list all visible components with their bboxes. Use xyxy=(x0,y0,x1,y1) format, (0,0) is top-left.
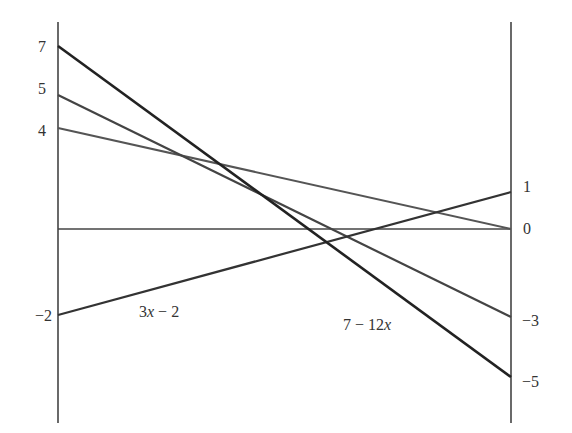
label-rest: − 2 xyxy=(154,303,179,320)
right-tick-label: 0 xyxy=(523,220,531,237)
left-tick-label: −2 xyxy=(35,307,52,324)
label-coef: 3 xyxy=(139,303,147,320)
line-label-3x-minus-2: 3x − 2 xyxy=(139,303,179,320)
left-tick-label: 5 xyxy=(38,80,46,97)
right-tick-label: −5 xyxy=(522,373,539,390)
series-line-5-minus-8x xyxy=(58,95,511,317)
right-tick-label: 1 xyxy=(523,178,531,195)
left-tick-label: 4 xyxy=(38,122,46,139)
line-label-7-minus-12x: 7 − 12x xyxy=(343,316,391,333)
right-tick-label: −3 xyxy=(522,312,539,329)
line-chart: 7 5 4 −2 1 0 −3 −5 3x − 2 7 − 12x xyxy=(0,0,572,433)
label-var: x xyxy=(146,303,154,320)
label-coef: 7 − 12 xyxy=(343,316,384,333)
label-var: x xyxy=(383,316,391,333)
series-line-4-minus-4x xyxy=(58,128,511,229)
left-tick-label: 7 xyxy=(38,38,46,55)
